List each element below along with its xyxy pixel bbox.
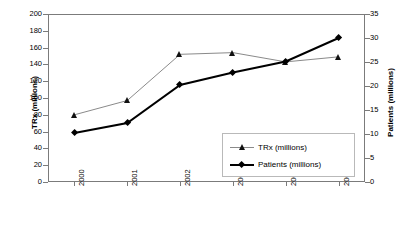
left-tick-mark [43,81,48,82]
left-tick-mark [43,64,48,65]
data-point-trx [176,51,182,57]
left-tick-label: 60 [34,128,42,136]
right-tick-mark [365,134,370,135]
left-tick-label: 140 [29,60,42,68]
left-tick-label: 100 [29,94,42,102]
legend-marker-triangle [230,143,254,153]
right-tick-mark [365,86,370,87]
right-tick-mark [365,110,370,111]
data-point-trx [335,54,341,60]
x-tick-mark [233,182,234,186]
right-tick-mark [365,158,370,159]
legend-label-patients: Patients (millions) [254,160,321,169]
legend-label-trx: TRx (millions) [254,143,307,152]
left-tick-mark [43,165,48,166]
data-point-trx [229,50,235,56]
legend-item-trx[interactable]: TRx (millions) [223,139,354,156]
legend: TRx (millions) Patients (millions) [222,133,355,177]
data-point-trx [124,97,130,103]
left-tick-label: 20 [34,161,42,169]
left-tick-label: 0 [38,178,42,186]
right-tick-label: 5 [370,154,374,162]
x-tick-label: 2002 [184,169,192,186]
right-tick-label: 0 [370,178,374,186]
right-tick-label: 25 [370,58,378,66]
left-tick-mark [43,98,48,99]
right-tick-label: 15 [370,106,378,114]
x-tick-label: 2000 [78,169,86,186]
left-tick-mark [43,132,48,133]
x-tick-mark [127,182,128,186]
right-axis-title: Patients (millions) [386,43,395,163]
right-tick-mark [365,14,370,15]
right-tick-mark [365,38,370,39]
right-tick-label: 10 [370,130,378,138]
left-tick-label: 120 [29,77,42,85]
legend-item-patients[interactable]: Patients (millions) [223,156,354,173]
left-tick-label: 40 [34,144,42,152]
data-point-trx [71,112,77,118]
x-tick-label: 2001 [131,169,139,186]
left-tick-mark [43,48,48,49]
left-tick-label: 160 [29,44,42,52]
right-tick-label: 30 [370,34,378,42]
left-tick-label: 80 [34,111,42,119]
right-tick-mark [365,182,370,183]
left-tick-label: 200 [29,10,42,18]
x-tick-mark [339,182,340,186]
right-tick-label: 35 [370,10,378,18]
left-tick-mark [43,115,48,116]
chart-container: TRx (millions) Patients (millions) 02040… [0,0,410,230]
x-tick-mark [180,182,181,186]
left-tick-mark [43,182,48,183]
legend-marker-diamond [230,160,254,170]
left-tick-mark [43,148,48,149]
left-tick-label: 180 [29,27,42,35]
right-tick-label: 20 [370,82,378,90]
left-tick-mark [43,14,48,15]
x-tick-mark [286,182,287,186]
right-tick-mark [365,62,370,63]
x-tick-mark [74,182,75,186]
left-tick-mark [43,31,48,32]
